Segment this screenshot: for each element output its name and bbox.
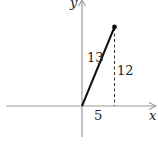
endpoint-dot (112, 25, 117, 30)
adjacent-leg-label: 5 (94, 108, 102, 123)
x-axis-label: x (149, 108, 157, 123)
opposite-leg-label: 12 (117, 63, 134, 78)
y-axis-label: y (69, 0, 78, 10)
x-axis (6, 103, 156, 110)
hypotenuse-vector (82, 27, 115, 106)
hypotenuse-label: 13 (87, 50, 104, 65)
y-axis (79, 0, 86, 137)
coordinate-diagram: y x 13 12 5 (0, 0, 158, 144)
